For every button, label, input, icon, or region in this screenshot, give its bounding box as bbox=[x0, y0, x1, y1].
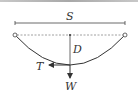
tension-label: T bbox=[36, 60, 45, 73]
span-label: S bbox=[66, 10, 74, 23]
weight-label: W bbox=[65, 80, 78, 93]
sag-label: D bbox=[72, 43, 82, 56]
span-dimension: S bbox=[15, 10, 125, 25]
right-support-icon bbox=[123, 33, 127, 37]
sag-diagram: S D T W bbox=[0, 0, 138, 100]
left-support-icon bbox=[13, 33, 17, 37]
